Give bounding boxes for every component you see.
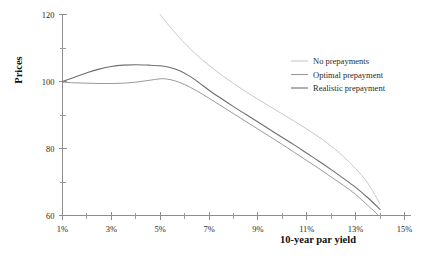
y-axis-title: Prices [13,56,24,83]
axes [63,14,411,216]
x-tick-label: 7% [203,224,214,234]
axis-tick-labels: 60801001201%3%5%7%9%11%13%15% [42,10,413,234]
x-tick-label: 15% [397,224,413,234]
series-line [63,79,378,215]
legend-label: No prepayments [313,56,369,66]
axis-ticks [59,15,405,220]
x-tick-label: 13% [348,224,364,234]
legend-label: Realistic prepayment [313,83,386,93]
x-tick-label: 5% [155,224,166,234]
series-line [160,15,380,204]
y-tick-label: 80 [46,144,55,154]
x-tick-label: 9% [252,224,263,234]
legend-label: Optimal prepayment [313,70,384,80]
data-series [63,15,381,215]
x-tick-label: 1% [57,224,68,234]
legend: No prepaymentsOptimal prepaymentRealisti… [291,56,386,93]
x-tick-label: 3% [106,224,117,234]
x-tick-label: 11% [299,224,314,234]
price-yield-line-chart: 60801001201%3%5%7%9%11%13%15% Prices10-y… [0,0,431,262]
y-tick-label: 120 [42,10,55,20]
y-tick-label: 100 [42,77,55,87]
x-axis-title: 10-year par yield [280,234,356,245]
y-tick-label: 60 [46,211,55,221]
chart-container: 60801001201%3%5%7%9%11%13%15% Prices10-y… [0,0,431,262]
